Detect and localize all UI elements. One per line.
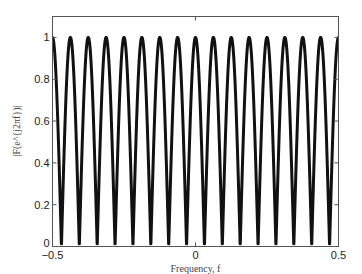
y-tick-label: 0.6 — [34, 115, 49, 127]
chart: 0.20.40.60.810 −0.500.5 Frequency, f |F(… — [0, 0, 362, 274]
y-tick-label: 0.4 — [34, 157, 49, 169]
y-tick-label: 0 — [43, 237, 49, 249]
x-axis-label: Frequency, f — [171, 263, 222, 274]
data-series-line — [53, 37, 339, 243]
x-tick-label: −0.5 — [42, 249, 64, 261]
y-tick-label: 1 — [43, 31, 49, 43]
y-tick-label: 0.8 — [34, 73, 49, 85]
y-axis-label: |F(e^{j2πf})| — [11, 105, 23, 156]
plot-area — [53, 37, 339, 243]
y-tick-label: 0.2 — [34, 199, 49, 211]
x-tick-label: 0 — [192, 249, 198, 261]
x-tick-label: 0.5 — [331, 249, 346, 261]
